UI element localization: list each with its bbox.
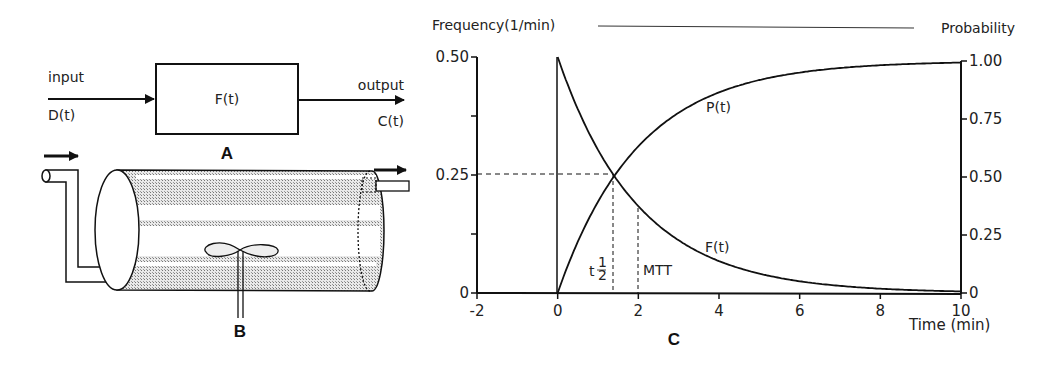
- panel-c-chart: Frequency(1/min) Probability 00.250.5000…: [432, 17, 1015, 349]
- half-life-fraction-den: 2: [598, 267, 607, 283]
- panel-a-block-diagram: input D(t) F(t) output C(t) A: [48, 64, 405, 163]
- output-label: output: [358, 77, 405, 93]
- panel-c-letter: C: [668, 330, 680, 349]
- x-tick-label: -2: [470, 302, 485, 320]
- f-t-label: F(t): [705, 239, 729, 255]
- outlet-pipe-icon: [376, 181, 409, 191]
- right-tick-label: 0.50: [969, 168, 1002, 186]
- axis-title-connector: [598, 26, 914, 28]
- panel-a-letter: A: [221, 144, 233, 163]
- half-life-label: t: [589, 263, 595, 279]
- right-tick-label: 0.75: [969, 110, 1002, 128]
- panel-b-tube-reactor: B: [42, 156, 409, 341]
- f-t-curve: [558, 57, 961, 291]
- left-tick-label: 0.25: [436, 166, 469, 184]
- x-tick-label: 6: [795, 302, 805, 320]
- input-label: input: [48, 69, 85, 85]
- cylinder-end-cap: [95, 170, 139, 290]
- output-function-label: C(t): [378, 113, 404, 129]
- axis-ticks: 00.250.5000.250.500.751.00-20246810: [436, 48, 1003, 320]
- x-tick-label: 2: [634, 302, 644, 320]
- left-tick-label: 0.50: [436, 48, 469, 66]
- input-function-label: D(t): [48, 107, 75, 123]
- x-tick-label: 0: [553, 302, 563, 320]
- right-tick-label: 0.25: [969, 226, 1002, 244]
- x-tick-label: 8: [876, 302, 886, 320]
- panel-b-letter: B: [234, 322, 246, 341]
- x-axis-title: Time (min): [908, 316, 990, 334]
- right-tick-label: 0: [969, 284, 979, 302]
- left-tick-label: 0: [459, 284, 469, 302]
- p-t-curve: [558, 63, 961, 293]
- x-tick-label: 4: [714, 302, 724, 320]
- p-t-label: P(t): [706, 99, 731, 115]
- right-axis-title: Probability: [941, 20, 1015, 36]
- figure: input D(t) F(t) output C(t) A: [0, 0, 1052, 365]
- left-axis-title: Frequency(1/min): [432, 17, 555, 33]
- right-tick-label: 1.00: [969, 52, 1002, 70]
- mtt-label: MTT: [643, 262, 672, 278]
- transfer-function-label: F(t): [215, 91, 239, 107]
